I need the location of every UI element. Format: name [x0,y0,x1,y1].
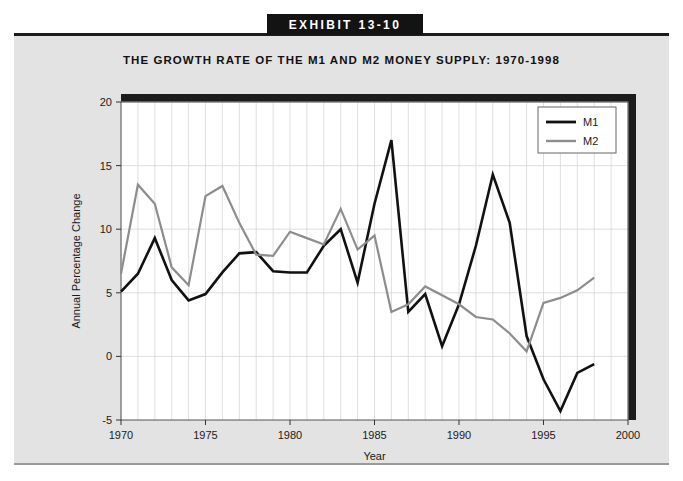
plot-shadow-top [121,94,636,102]
ytick-label: 15 [100,160,112,172]
legend-label-m2: M2 [583,135,598,147]
xtick-label: 1990 [447,429,471,441]
xtick-label: 1975 [193,429,217,441]
xtick-label: 1970 [109,429,133,441]
ytick-label: 0 [106,350,112,362]
xtick-label: 2000 [616,429,640,441]
legend-box [538,107,616,153]
xtick-label: 1980 [278,429,302,441]
xtick-label: 1985 [362,429,386,441]
plot-shadow-right [628,94,636,420]
y-axis-title: Annual Percentage Change [70,193,82,328]
xtick-label: 1995 [531,429,555,441]
chart-title: THE GROWTH RATE OF THE M1 AND M2 MONEY S… [0,54,683,66]
ytick-label: 5 [106,287,112,299]
legend-label-m1: M1 [583,116,598,128]
x-axis-title: Year [363,450,386,462]
exhibit-figure: EXHIBIT 13-10 THE GROWTH RATE OF THE M1 … [0,0,683,481]
ytick-label: 20 [100,96,112,108]
ytick-label: 10 [100,223,112,235]
chart-canvas: -5051015201970197519801985199019952000Ye… [0,0,683,481]
exhibit-banner: EXHIBIT 13-10 [267,14,423,35]
ytick-label: -5 [102,414,112,426]
line-chart: -5051015201970197519801985199019952000Ye… [0,0,683,481]
